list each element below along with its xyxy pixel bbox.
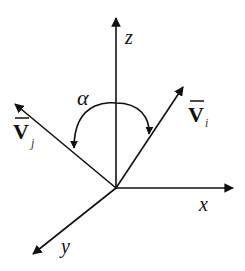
z-axis-label: z	[124, 26, 133, 48]
diagram-svg: z x y α V i V j	[0, 0, 245, 271]
vector-vj-subscript: j	[29, 136, 35, 150]
vector-vj-symbol: V	[13, 119, 29, 144]
x-axis-label: x	[198, 193, 208, 215]
y-axis-label: y	[59, 235, 70, 258]
y-axis	[33, 188, 116, 254]
vector-vi-subscript: i	[205, 116, 208, 130]
vector-vi-label: V i	[188, 101, 208, 130]
vector-vi-symbol: V	[188, 102, 204, 127]
angle-alpha-label: α	[77, 85, 89, 110]
vector-vi-arrow	[116, 87, 183, 188]
vector-angle-diagram: z x y α V i V j	[0, 0, 245, 271]
vector-vj-label: V j	[13, 118, 35, 150]
